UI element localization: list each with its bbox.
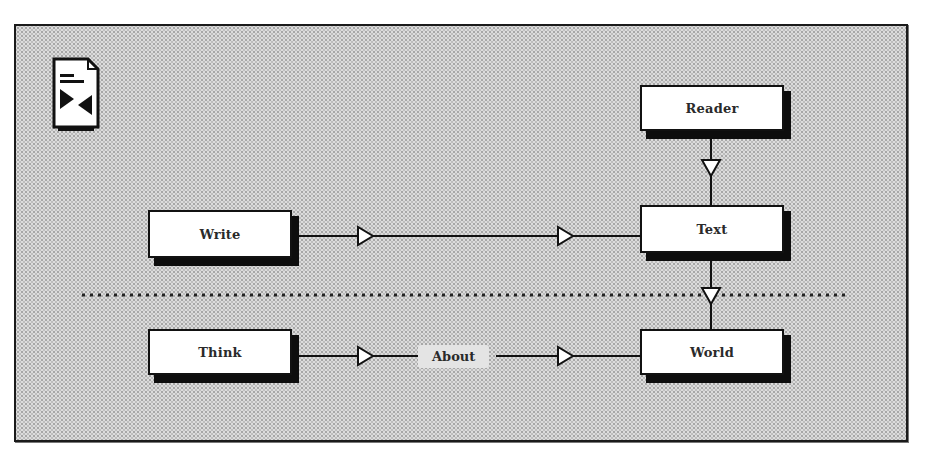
node-reader[interactable]: Reader bbox=[640, 85, 784, 131]
node-text[interactable]: Text bbox=[640, 205, 784, 253]
arrowhead-think-2 bbox=[558, 347, 573, 365]
node-think-label: Think bbox=[198, 345, 242, 360]
arrowhead-write-1 bbox=[358, 227, 373, 245]
node-write-label: Write bbox=[199, 227, 240, 242]
node-world[interactable]: World bbox=[640, 329, 784, 375]
node-write[interactable]: Write bbox=[148, 210, 292, 258]
node-world-label: World bbox=[690, 345, 734, 360]
edge-label-about: About bbox=[418, 345, 489, 368]
arrowhead-text-world bbox=[702, 288, 720, 304]
node-reader-label: Reader bbox=[686, 101, 739, 116]
arrowhead-think-1 bbox=[358, 347, 373, 365]
arrowhead-write-2 bbox=[558, 227, 573, 245]
document-exchange-icon bbox=[52, 57, 112, 141]
node-text-label: Text bbox=[696, 222, 727, 237]
node-think[interactable]: Think bbox=[148, 329, 292, 375]
arrowhead-reader-text bbox=[702, 160, 720, 176]
